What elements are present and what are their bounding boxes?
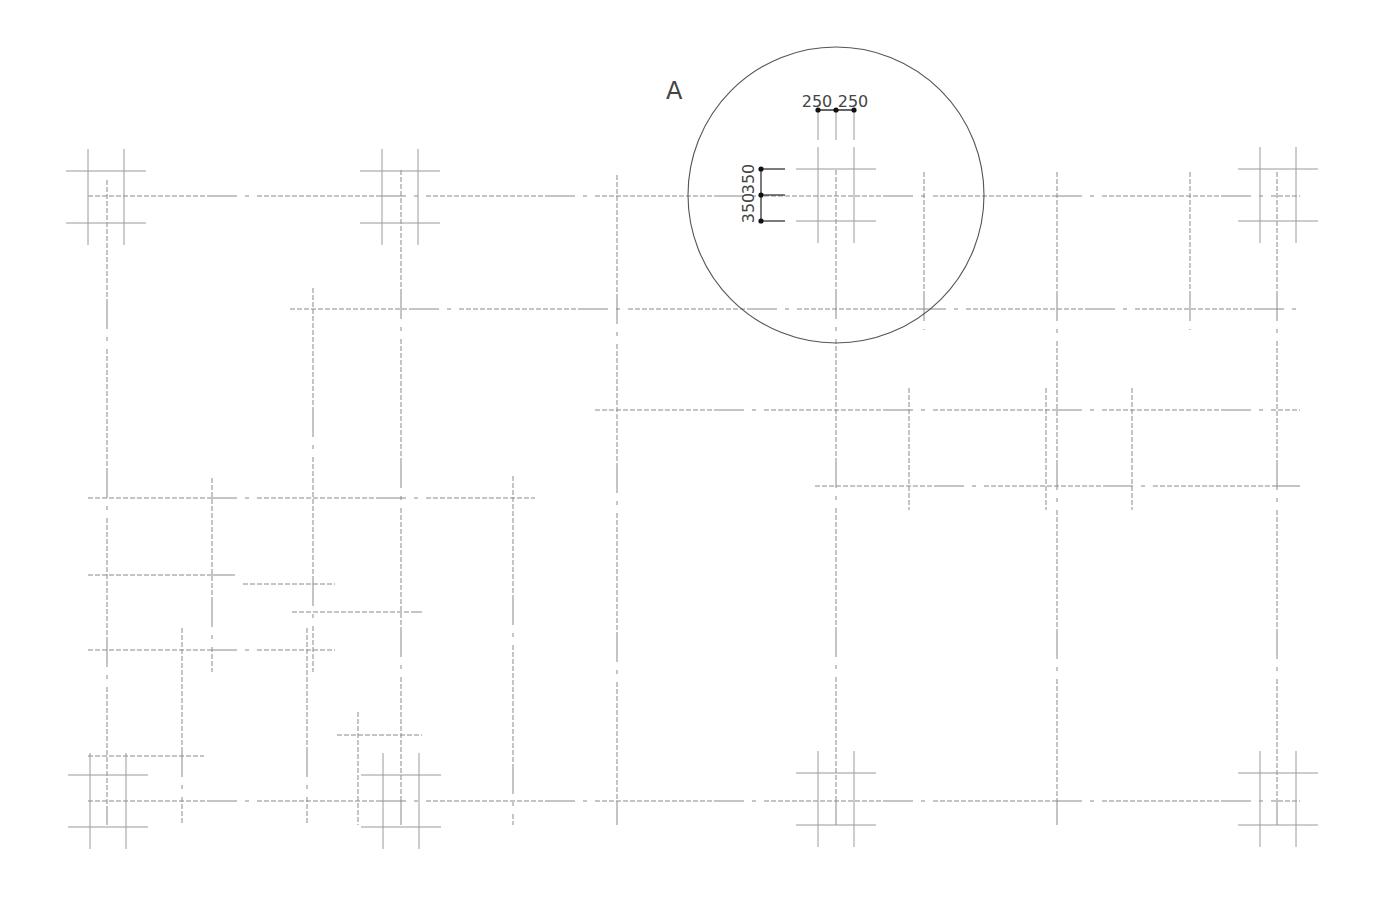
dimension-dot — [851, 107, 856, 112]
drawing-canvas: A 250 250 350 350 — [0, 0, 1385, 901]
col-bottom-left — [68, 753, 148, 849]
col-top-left — [66, 149, 146, 245]
horizontal-grid-lines — [88, 196, 1300, 801]
dimension-dot — [833, 107, 838, 112]
dimension-label-v-2: 350 — [739, 193, 758, 224]
dimension-label-v-1: 350 — [739, 164, 758, 195]
col-bottom-right — [1238, 751, 1318, 847]
col-top-right — [1238, 147, 1318, 243]
dimension-dot — [815, 107, 820, 112]
column-markers — [66, 147, 1318, 849]
dimension-dot — [758, 166, 763, 171]
dimension-dot — [758, 192, 763, 197]
dimension-annotations: 250 250 350 350 — [739, 92, 868, 224]
dimension-dot — [758, 218, 763, 223]
col-top-2 — [360, 149, 440, 245]
callout-label: A — [666, 77, 683, 105]
